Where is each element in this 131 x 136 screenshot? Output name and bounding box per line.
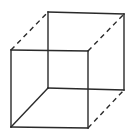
cube-edges — [11, 12, 124, 128]
bottom-right-connector — [88, 90, 124, 128]
front-bottom-edge — [11, 127, 88, 128]
back-bottom-edge — [48, 88, 124, 90]
bottom-left-connector — [11, 88, 48, 127]
top-right-connector — [88, 14, 124, 51]
back-top-edge — [48, 12, 124, 14]
top-left-connector — [11, 12, 48, 50]
cube-diagram — [0, 0, 131, 136]
front-top-edge — [11, 50, 88, 51]
